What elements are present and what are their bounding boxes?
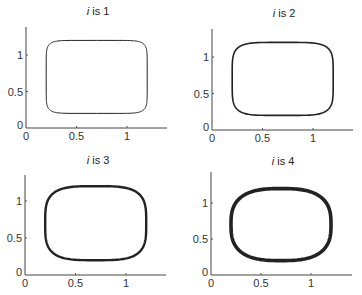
y-tick-label: 0.5: [8, 86, 23, 98]
x-tick-label: 0: [23, 130, 29, 142]
x-tick-label: 0: [22, 277, 28, 289]
y-tick-label: 0.5: [194, 88, 209, 100]
subplot-4: i is 400.5100.51: [193, 155, 352, 289]
rounded-rectangle-curve: [46, 40, 147, 113]
y-tick-label: 0: [203, 121, 209, 133]
rounded-rectangle-curve: [232, 42, 333, 115]
y-tick-label: 1: [203, 51, 209, 63]
subplot-title: i is 4: [272, 155, 295, 167]
y-tick-label: 0: [202, 266, 208, 278]
figure: i is 100.5100.51i is 200.5100.51i is 300…: [0, 0, 362, 295]
x-tick-label: 0.5: [255, 132, 270, 144]
x-tick-label: 1: [124, 130, 130, 142]
rounded-rectangle-curve: [45, 186, 146, 260]
x-tick-label: 0.5: [253, 277, 268, 289]
y-tick-label: 0: [16, 266, 22, 278]
y-tick-label: 0.5: [193, 233, 208, 245]
y-tick-label: 0.5: [7, 232, 22, 244]
subplot-3: i is 300.5100.51: [7, 154, 166, 289]
x-tick-label: 1: [123, 277, 129, 289]
subplot-2: i is 200.5100.51: [194, 7, 353, 144]
axes: [26, 27, 167, 128]
y-tick-label: 1: [17, 49, 23, 61]
y-tick-label: 0: [17, 119, 23, 131]
subplot-title: i is 1: [87, 5, 110, 17]
x-tick-label: 0: [208, 277, 214, 289]
x-tick-label: 1: [310, 132, 316, 144]
rounded-rectangle-curve: [231, 189, 331, 261]
x-tick-label: 1: [308, 277, 314, 289]
x-tick-label: 0.5: [68, 277, 83, 289]
subplot-title: i is 2: [273, 7, 296, 19]
subplot-1: i is 100.5100.51: [8, 5, 167, 142]
subplot-title: i is 3: [87, 154, 110, 166]
x-tick-label: 0.5: [69, 130, 84, 142]
y-tick-label: 1: [16, 195, 22, 207]
x-tick-label: 0: [209, 132, 215, 144]
y-tick-label: 1: [202, 197, 208, 209]
